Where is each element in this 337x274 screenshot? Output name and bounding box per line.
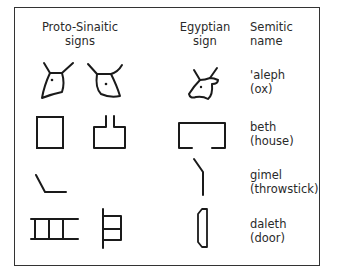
door-sign-icon: [31, 219, 78, 239]
house-sign-icon: [37, 117, 63, 148]
door-sign-icon: [103, 209, 121, 248]
house-sign-icon: [94, 116, 125, 148]
throwstick-sign-icon: [36, 175, 66, 192]
door-hieroglyph-icon: [198, 209, 207, 247]
ox-head-sign-icon: [88, 64, 122, 97]
ox-head-sign-icon: [42, 63, 73, 98]
house-hieroglyph-icon: [179, 123, 225, 148]
ox-head-hieroglyph-icon: [189, 68, 218, 99]
throwstick-hieroglyph-icon: [194, 159, 203, 195]
signs-drawing: [0, 0, 337, 274]
